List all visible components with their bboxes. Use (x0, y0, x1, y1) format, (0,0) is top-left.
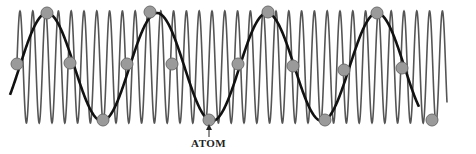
sample-point (97, 114, 109, 126)
sample-point (262, 6, 274, 18)
wave-figure (0, 0, 476, 154)
sample-point (232, 58, 244, 70)
aliasing-diagram: ATOM (0, 0, 476, 154)
atom-label: ATOM (191, 137, 226, 149)
sample-point (121, 58, 133, 70)
sample-point (144, 6, 156, 18)
sample-point (371, 7, 383, 19)
sample-point (287, 60, 299, 72)
sample-point (338, 64, 350, 76)
sample-point (426, 114, 438, 126)
sample-point (11, 58, 23, 70)
fast-oscillation-wave (17, 11, 447, 123)
sample-point (166, 58, 178, 70)
sample-point (396, 62, 408, 74)
sample-point (319, 114, 331, 126)
sample-point (64, 57, 76, 69)
sample-point (41, 7, 53, 19)
